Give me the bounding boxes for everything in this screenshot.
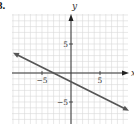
x-tick-label: −5 [36, 76, 47, 85]
y-axis-label: y [71, 1, 78, 11]
y-tick-label: −5 [57, 98, 68, 107]
y-tick-label: 5 [63, 40, 68, 49]
coordinate-plane: xy−555−5 [0, 0, 134, 124]
x-axis-label: x [131, 68, 134, 78]
x-axis-arrow-icon [122, 71, 129, 76]
x-tick-label: 5 [98, 76, 103, 85]
